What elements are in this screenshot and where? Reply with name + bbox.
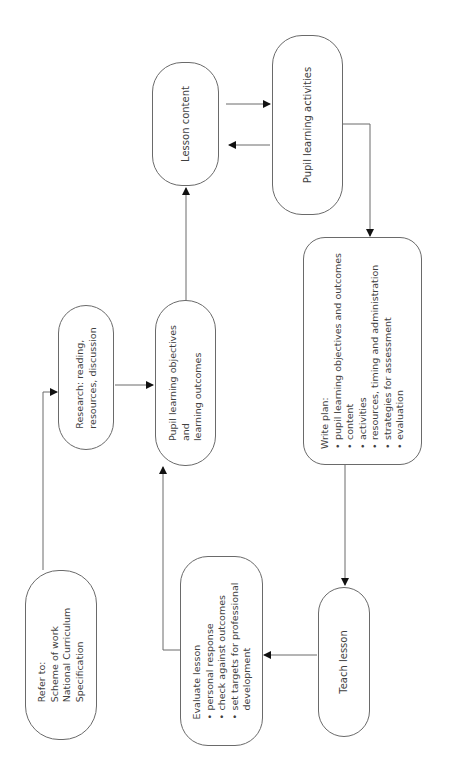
arrow-activities-to-write-plan bbox=[343, 124, 370, 236]
node-learning-objectives: Pupil learning objectives and learning o… bbox=[155, 300, 216, 466]
write-plan-title: Write plan: bbox=[319, 253, 332, 449]
objectives-line: Pupil learning objectives bbox=[167, 325, 180, 441]
node-lesson-content: Lesson content bbox=[152, 62, 219, 186]
evaluate-list: personal response check against outcomes… bbox=[203, 582, 253, 719]
evaluate-item: set targets for professional bbox=[228, 582, 241, 719]
evaluate-title: Evaluate lesson bbox=[190, 582, 203, 719]
research-line: Research: reading, bbox=[74, 327, 87, 428]
refer-to-line: Scheme of work bbox=[49, 608, 62, 703]
write-plan-text: Write plan: pupil learning objectives an… bbox=[319, 253, 407, 449]
refer-to-title: Refer to: bbox=[36, 608, 49, 703]
arrow-refer-to-research bbox=[43, 392, 57, 570]
write-plan-item: pupil learning objectives and outcomes bbox=[331, 253, 344, 449]
node-teach-lesson: Teach lesson bbox=[318, 587, 370, 737]
write-plan-item: evaluation bbox=[394, 253, 407, 449]
refer-to-text: Refer to: Scheme of work National Curric… bbox=[36, 608, 86, 703]
evaluate-item: check against outcomes bbox=[215, 582, 228, 719]
node-evaluate-lesson: Evaluate lesson personal response check … bbox=[180, 556, 263, 746]
objectives-text: Pupil learning objectives and learning o… bbox=[167, 325, 205, 441]
activities-label: Pupil learning activities bbox=[301, 67, 314, 183]
lesson-content-label: Lesson content bbox=[179, 86, 192, 162]
refer-to-line: National Curriculum bbox=[61, 608, 74, 703]
node-refer-to: Refer to: Scheme of work National Curric… bbox=[25, 570, 97, 740]
node-pupil-learning-activities: Pupil learning activities bbox=[272, 35, 343, 215]
write-plan-item: resources, timing and administration bbox=[369, 253, 382, 449]
evaluate-item: development bbox=[240, 582, 253, 719]
research-text: Research: reading, resources, discussion bbox=[74, 327, 99, 428]
write-plan-list: pupil learning objectives and outcomes c… bbox=[331, 253, 406, 449]
refer-to-line: Specification bbox=[74, 608, 87, 703]
write-plan-item: activities bbox=[356, 253, 369, 449]
write-plan-item: content bbox=[344, 253, 357, 449]
write-plan-item: strategies for assessment bbox=[381, 253, 394, 449]
node-write-plan: Write plan: pupil learning objectives an… bbox=[303, 237, 422, 465]
evaluate-item: personal response bbox=[203, 582, 216, 719]
objectives-line: and bbox=[179, 325, 192, 441]
teach-lesson-label: Teach lesson bbox=[338, 630, 351, 694]
arrow-evaluate-to-objectives bbox=[163, 467, 180, 650]
evaluate-text: Evaluate lesson personal response check … bbox=[190, 582, 253, 719]
research-line: resources, discussion bbox=[86, 327, 99, 428]
objectives-line: learning outcomes bbox=[192, 325, 205, 441]
node-research: Research: reading, resources, discussion bbox=[58, 305, 114, 450]
